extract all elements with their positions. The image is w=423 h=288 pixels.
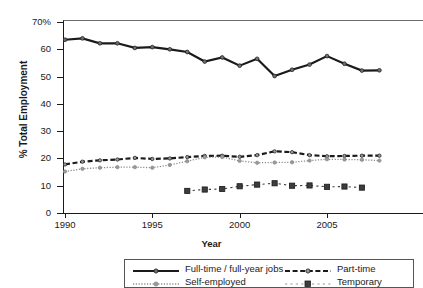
data-point — [63, 38, 67, 42]
legend-item-label: Full-time / full-year jobs — [181, 263, 283, 275]
data-point — [343, 158, 346, 161]
data-point — [360, 69, 364, 73]
data-point — [151, 157, 154, 160]
legend-item[interactable]: Temporary — [283, 275, 382, 288]
data-point — [273, 150, 276, 153]
data-point — [98, 166, 101, 169]
data-point — [273, 161, 276, 164]
data-point — [342, 184, 347, 189]
data-point — [290, 68, 294, 72]
series-layer — [0, 0, 423, 288]
data-point — [308, 153, 311, 156]
data-point — [238, 155, 241, 158]
data-point — [133, 156, 136, 159]
data-point — [133, 165, 136, 168]
data-point — [360, 154, 363, 157]
data-point — [186, 155, 189, 158]
data-point — [360, 158, 363, 161]
data-point — [202, 187, 207, 192]
data-point — [116, 158, 119, 161]
data-point — [238, 64, 242, 68]
legend-item-label: Part-time — [333, 263, 376, 275]
data-point — [378, 68, 382, 72]
legend-key-icon — [283, 276, 333, 288]
data-point — [168, 163, 171, 166]
data-point — [116, 41, 120, 45]
data-point — [81, 36, 85, 40]
legend-item-label: Temporary — [333, 276, 382, 288]
data-point — [290, 150, 293, 153]
data-point — [255, 182, 260, 187]
data-point — [308, 159, 311, 162]
data-point — [203, 60, 207, 64]
data-point — [325, 54, 329, 58]
data-point — [116, 165, 119, 168]
legend-key-icon — [131, 263, 181, 275]
data-point — [220, 56, 224, 60]
data-point — [203, 156, 206, 159]
data-point — [343, 62, 347, 66]
data-point — [81, 167, 84, 170]
chart-legend: Full-time / full-year jobsPart-timeSelf-… — [124, 259, 414, 288]
data-point — [324, 184, 329, 189]
data-point — [308, 63, 312, 67]
data-point — [255, 153, 258, 156]
data-point — [98, 41, 102, 45]
data-point — [221, 155, 224, 158]
data-point — [325, 158, 328, 161]
data-point — [220, 186, 225, 191]
data-point — [255, 57, 259, 61]
data-point — [378, 159, 381, 162]
data-point — [98, 159, 101, 162]
data-point — [185, 50, 189, 54]
data-point — [151, 166, 154, 169]
data-point — [307, 183, 312, 188]
data-point — [186, 159, 189, 162]
legend-item[interactable]: Self-employed — [131, 275, 246, 288]
data-point — [168, 157, 171, 160]
data-point — [168, 47, 172, 51]
data-point — [272, 181, 277, 186]
series-full-time-full-year-jobs — [63, 36, 381, 77]
series-self-employed — [63, 155, 381, 173]
data-point — [289, 183, 294, 188]
data-point — [185, 188, 190, 193]
data-point — [378, 154, 381, 157]
data-point — [343, 154, 346, 157]
data-point — [133, 46, 137, 50]
data-point — [81, 160, 84, 163]
data-point — [359, 185, 364, 190]
data-point — [273, 74, 277, 78]
data-point — [63, 170, 66, 173]
legend-key-icon — [283, 263, 333, 275]
data-point — [63, 163, 66, 166]
chart-figure: % Total Employment Year 70%6050403020100… — [0, 0, 423, 288]
legend-key-icon — [131, 276, 181, 288]
data-point — [238, 159, 241, 162]
legend-item[interactable]: Part-time — [283, 262, 376, 275]
data-point — [255, 161, 258, 164]
data-point — [237, 184, 242, 189]
legend-item-label: Self-employed — [181, 276, 246, 288]
data-point — [150, 45, 154, 49]
legend-item[interactable]: Full-time / full-year jobs — [131, 262, 283, 275]
series-temporary — [185, 181, 365, 194]
data-point — [290, 161, 293, 164]
